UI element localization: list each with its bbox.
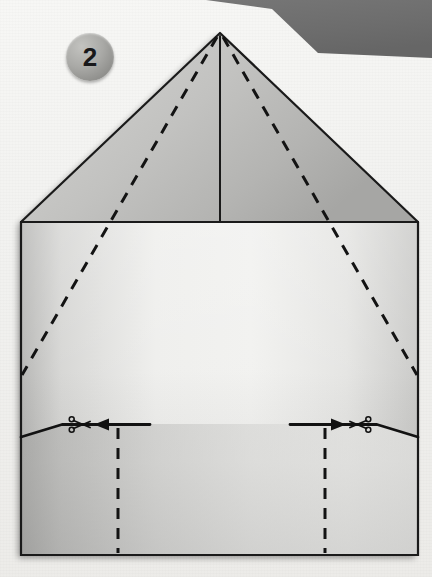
step-number-label: 2 <box>83 44 97 70</box>
figure-illustration <box>0 0 432 577</box>
diagram-canvas: 2 <box>0 0 432 577</box>
step-number-badge: 2 <box>66 33 114 81</box>
top-right-dark-band <box>206 0 432 58</box>
paper-lower-strip <box>21 424 418 555</box>
